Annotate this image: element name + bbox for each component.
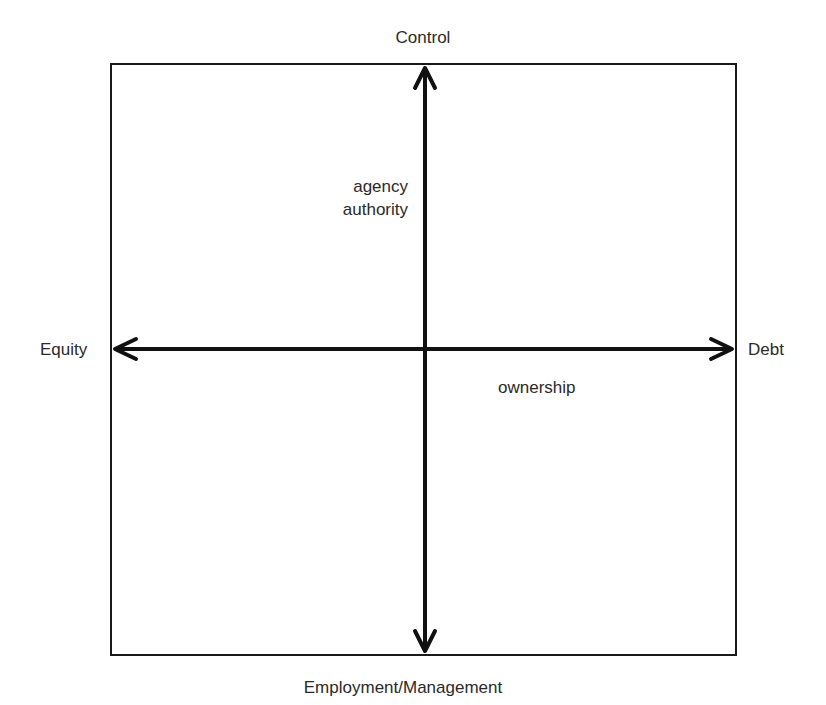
- axis-label-control: Control: [0, 28, 826, 48]
- axis-label-debt: Debt: [748, 340, 784, 360]
- quadrant-diagram: [0, 0, 826, 705]
- annotation-agency: agency: [320, 175, 408, 198]
- axis-label-equity: Equity: [40, 340, 87, 360]
- annotation-agency-authority: agency authority: [320, 175, 408, 221]
- annotation-ownership: ownership: [498, 378, 576, 398]
- annotation-authority: authority: [320, 198, 408, 221]
- axis-label-employment-management: Employment/Management: [0, 678, 826, 698]
